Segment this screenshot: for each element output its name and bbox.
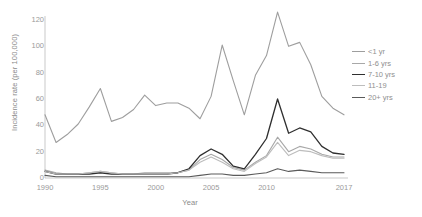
legend-item-20-yrs[interactable]: 20+ yrs: [352, 92, 395, 103]
legend-item-7-10-yrs[interactable]: 7-10 yrs: [352, 69, 395, 80]
legend-item-label: <1 yr: [368, 47, 385, 56]
incidence-rate-line-chart: Incidence rate (per 100,000) Year 020406…: [0, 0, 422, 217]
legend-item-label: 20+ yrs: [368, 93, 393, 102]
legend-swatch-icon: [352, 85, 365, 86]
plot-area: [0, 0, 422, 217]
legend-swatch-icon: [352, 63, 365, 64]
legend-item--1-yr[interactable]: <1 yr: [352, 46, 395, 57]
series-line--1-yr: [45, 12, 344, 142]
series-line-7-10-yrs: [45, 99, 344, 174]
legend-item-label: 7-10 yrs: [368, 70, 395, 79]
legend-item-label: 11-19: [368, 81, 387, 90]
series-line-1-6-yrs: [45, 137, 344, 174]
legend-swatch-icon: [352, 51, 365, 52]
chart-legend: <1 yr1-6 yrs7-10 yrs11-1920+ yrs: [352, 46, 395, 103]
legend-swatch-icon: [352, 97, 365, 98]
legend-swatch-icon: [352, 74, 365, 75]
legend-item-11-19[interactable]: 11-19: [352, 80, 395, 91]
legend-item-1-6-yrs[interactable]: 1-6 yrs: [352, 57, 395, 68]
legend-item-label: 1-6 yrs: [368, 59, 391, 68]
